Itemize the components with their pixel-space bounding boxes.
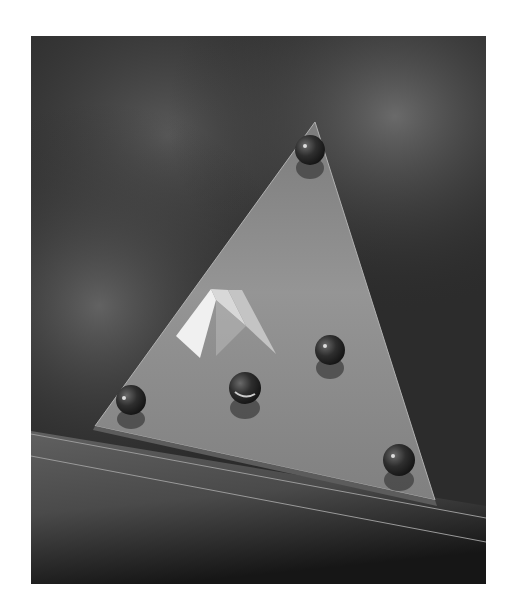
marble-right-middle	[315, 335, 345, 379]
still-life-photo: Black-and-white still life: a glass tria…	[31, 36, 486, 584]
marble-center	[229, 372, 261, 419]
marble-bottom-right	[383, 444, 415, 491]
marble-top	[295, 135, 325, 179]
marble-left	[116, 385, 146, 429]
photo-canvas	[31, 36, 486, 584]
